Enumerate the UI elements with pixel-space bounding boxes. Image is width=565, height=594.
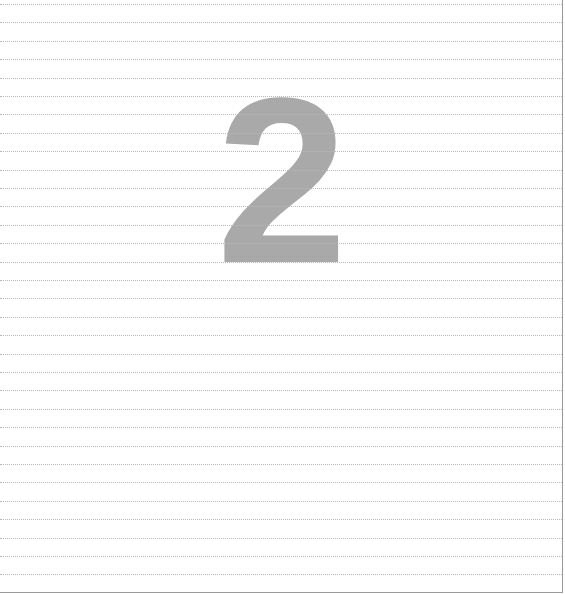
- ruled-line: [0, 22, 562, 23]
- ruled-line: [0, 4, 562, 5]
- ruled-line: [0, 354, 562, 355]
- lined-paper: 2: [0, 0, 563, 593]
- ruled-line: [0, 409, 562, 410]
- ruled-line: [0, 446, 562, 447]
- ruled-line: [0, 501, 562, 502]
- ruled-line: [0, 574, 562, 575]
- ruled-line: [0, 41, 562, 42]
- large-numeral: 2: [205, 62, 355, 298]
- ruled-line: [0, 317, 562, 318]
- ruled-line: [0, 427, 562, 428]
- ruled-line: [0, 390, 562, 391]
- ruled-line: [0, 519, 562, 520]
- ruled-line: [0, 556, 562, 557]
- ruled-line: [0, 464, 562, 465]
- ruled-line: [0, 482, 562, 483]
- ruled-line: [0, 538, 562, 539]
- ruled-line: [0, 372, 562, 373]
- ruled-line: [0, 335, 562, 336]
